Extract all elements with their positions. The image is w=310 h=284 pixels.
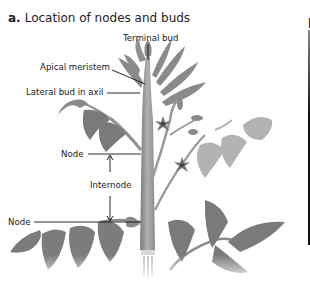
upper-right-leaves — [152, 38, 206, 106]
flower-branch — [152, 98, 205, 210]
right-light-leaves — [197, 117, 272, 178]
next-panel-edge — [308, 30, 310, 245]
label-terminal-bud: Terminal bud — [123, 33, 178, 43]
label-apical-meristem: Apical meristem — [40, 62, 110, 72]
stem — [140, 55, 155, 280]
next-panel-letter: b — [308, 17, 310, 31]
label-node-lower: Node — [8, 217, 30, 227]
label-node-upper: Node — [61, 149, 83, 159]
label-lateral-bud: Lateral bud in axil — [26, 87, 103, 97]
upper-left-branch — [58, 100, 141, 153]
label-internode: Internode — [90, 180, 131, 190]
